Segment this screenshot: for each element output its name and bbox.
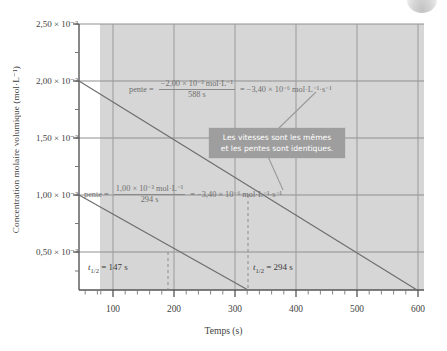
halflife-value-left: = 147 s xyxy=(101,262,128,272)
callout-line-1: Les vitesses sont les mêmes xyxy=(212,132,342,143)
callout-box: Les vitesses sont les mêmes et les pente… xyxy=(209,128,345,158)
halflife-subscript-left: 1/2 xyxy=(91,267,99,274)
slope-equation-lower: pente = 1,00 × 10⁻³ mol·L⁻¹ 294 s = −3,4… xyxy=(84,185,282,205)
slope-equation-upper-denominator: 588 s xyxy=(159,89,235,99)
halflife-value-right: = 294 s xyxy=(266,262,293,272)
slope-equation-upper-lead: pente = xyxy=(129,86,154,94)
halflife-label-294: t1/2 = 294 s xyxy=(253,262,293,272)
slope-equation-lower-fraction: 1,00 × 10⁻³ mol·L⁻¹ 294 s xyxy=(111,185,188,205)
slope-equation-upper-numerator: −2,00 × 10⁻³ mol·L⁻¹ xyxy=(159,80,235,89)
slope-equation-lower-result: = −3,40 × 10⁻⁶ mol·L⁻¹·s⁻¹ xyxy=(190,191,282,199)
slope-equation-upper-result: = −3,40 × 10⁻⁶ mol·L⁻¹·s⁻¹ xyxy=(240,86,332,94)
kinetics-figure: Concentration molaire volumique (mol·L⁻¹… xyxy=(0,0,447,351)
plot-canvas xyxy=(0,0,447,351)
halflife-label-147: t1/2 = 147 s xyxy=(88,262,128,272)
slope-equation-lower-lead: pente = xyxy=(84,191,109,199)
slope-equation-lower-denominator: 294 s xyxy=(114,194,185,204)
callout-line-2: et les pentes sont identiques. xyxy=(212,143,342,154)
slope-equation-upper-fraction: −2,00 × 10⁻³ mol·L⁻¹ 588 s xyxy=(156,80,238,100)
halflife-subscript-right: 1/2 xyxy=(256,267,264,274)
slope-equation-upper: pente = −2,00 × 10⁻³ mol·L⁻¹ 588 s = −3,… xyxy=(129,80,332,100)
x-major-ticks xyxy=(113,290,418,297)
slope-equation-lower-numerator: 1,00 × 10⁻³ mol·L⁻¹ xyxy=(114,185,185,194)
y-major-ticks xyxy=(73,24,79,252)
